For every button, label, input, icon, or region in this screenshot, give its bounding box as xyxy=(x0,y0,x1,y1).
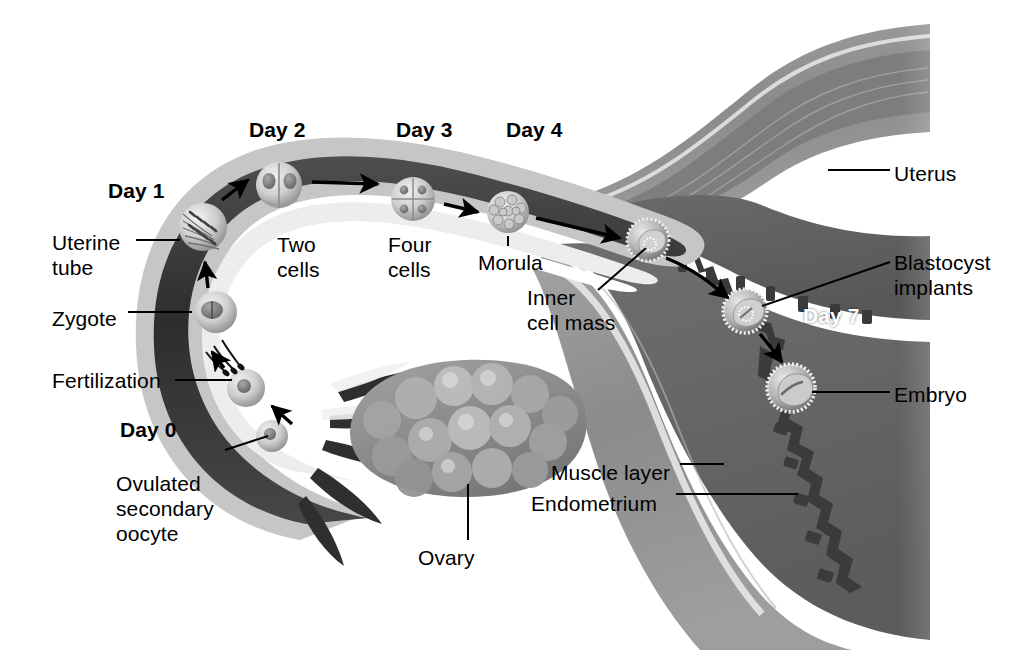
label-morula: Morula xyxy=(478,250,543,275)
label-muscle-layer: Muscle layer xyxy=(551,460,670,485)
label-four-cells-line: Four xyxy=(388,232,432,257)
label-inner-cell-mass-line: cell mass xyxy=(527,310,615,335)
label-ovulated-secondary-oocyte-line: secondary xyxy=(116,496,214,521)
label-zygote-line: Zygote xyxy=(52,306,117,331)
label-blastocyst-implants-line: Blastocyst xyxy=(894,250,991,275)
stage-four-cell xyxy=(391,177,435,221)
day-marker-day1: Day 1 xyxy=(108,178,165,203)
label-morula-line: Morula xyxy=(478,250,543,275)
day-marker-day4: Day 4 xyxy=(506,117,563,142)
stage-embryo xyxy=(767,364,815,412)
label-fertilization: Fertilization xyxy=(52,368,161,393)
label-uterine-tube: Uterinetube xyxy=(52,230,120,280)
label-uterus: Uterus xyxy=(894,161,956,186)
label-zygote: Zygote xyxy=(52,306,117,331)
label-ovulated-secondary-oocyte-line: oocyte xyxy=(116,521,214,546)
label-muscle-layer-line: Muscle layer xyxy=(551,460,670,485)
label-endometrium-line: Endometrium xyxy=(531,491,657,516)
label-endometrium: Endometrium xyxy=(531,491,657,516)
label-two-cells-line: Two xyxy=(277,232,320,257)
label-fertilization-line: Fertilization xyxy=(52,368,161,393)
stage-blastocyst-implanting xyxy=(723,289,767,333)
label-ovulated-secondary-oocyte-line: Ovulated xyxy=(116,471,214,496)
label-blastocyst-implants: Blastocystimplants xyxy=(894,250,991,300)
day-marker-day3: Day 3 xyxy=(396,117,453,142)
anatomy-illustration xyxy=(0,0,1027,656)
right-white-margin xyxy=(960,0,1027,656)
label-two-cells: Twocells xyxy=(277,232,320,282)
stage-two-cell xyxy=(256,162,302,208)
label-inner-cell-mass: Innercell mass xyxy=(527,285,615,335)
label-four-cells-line: cells xyxy=(388,257,432,282)
label-four-cells: Fourcells xyxy=(388,232,432,282)
stage-blastocyst xyxy=(627,219,669,261)
stage-cleaving-zygote xyxy=(179,203,227,251)
label-two-cells-line: cells xyxy=(277,257,320,282)
day-marker-day2: Day 2 xyxy=(249,117,306,142)
day-marker-day0: Day 0 xyxy=(120,417,177,442)
day-marker-day7: Day 7 xyxy=(803,303,860,328)
label-ovary-line: Ovary xyxy=(418,545,475,570)
label-blastocyst-implants-line: implants xyxy=(894,275,991,300)
stage-ovulated-oocyte xyxy=(256,420,288,452)
stage-zygote xyxy=(195,291,237,333)
label-embryo: Embryo xyxy=(894,382,967,407)
figure-canvas: Day 0Day 1Day 2Day 3Day 4Day 7Uterinetub… xyxy=(0,0,1027,656)
uterus-group xyxy=(532,24,930,650)
label-uterine-tube-line: tube xyxy=(52,255,120,280)
stage-morula xyxy=(487,191,529,233)
label-ovulated-secondary-oocyte: Ovulatedsecondaryoocyte xyxy=(116,471,214,546)
arrow-two-to-four xyxy=(312,182,378,184)
label-uterine-tube-line: Uterine xyxy=(52,230,120,255)
label-ovary: Ovary xyxy=(418,545,475,570)
label-inner-cell-mass-line: Inner xyxy=(527,285,615,310)
label-uterus-line: Uterus xyxy=(894,161,956,186)
label-embryo-line: Embryo xyxy=(894,382,967,407)
